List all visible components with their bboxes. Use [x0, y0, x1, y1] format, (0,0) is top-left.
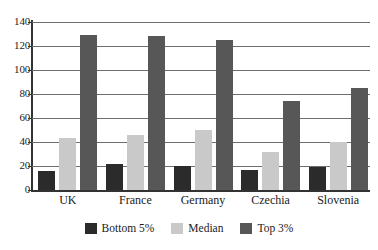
legend-item-median[interactable]: Median — [171, 222, 223, 234]
legend-swatch-icon — [171, 223, 183, 234]
bar-czechia-top-3 — [283, 101, 300, 190]
bar-france-bottom-5 — [106, 164, 123, 190]
y-tick-label-140: 140 — [4, 16, 30, 27]
bar-germany-top-3 — [216, 40, 233, 190]
bar-france-median — [127, 135, 144, 190]
bar-germany-median — [195, 130, 212, 190]
bar-czechia-median — [262, 152, 279, 190]
y-tick-mark-0 — [28, 190, 32, 191]
bar-group-germany: Germany — [174, 22, 233, 190]
legend-label: Bottom 5% — [102, 222, 155, 234]
y-tick-label-120: 120 — [4, 40, 30, 51]
y-tick-mark-40 — [28, 142, 32, 143]
legend-item-bottom-5[interactable]: Bottom 5% — [85, 222, 155, 234]
bar-chart: 020406080100120140 UKFranceGermanyCzechi… — [0, 0, 378, 250]
y-tick-mark-120 — [28, 46, 32, 47]
y-tick-mark-80 — [28, 94, 32, 95]
bar-slovenia-median — [330, 142, 347, 190]
bar-group-france: France — [106, 22, 165, 190]
legend-label: Median — [188, 222, 223, 234]
y-tick-label-20: 20 — [4, 160, 30, 171]
chart-legend: Bottom 5%MedianTop 3% — [0, 222, 378, 234]
bar-czechia-bottom-5 — [241, 170, 258, 190]
bar-uk-top-3 — [80, 35, 97, 190]
legend-swatch-icon — [240, 223, 252, 234]
bar-uk-bottom-5 — [38, 171, 55, 190]
bar-germany-bottom-5 — [174, 166, 191, 190]
bar-uk-median — [59, 138, 76, 190]
y-tick-mark-60 — [28, 118, 32, 119]
y-tick-mark-140 — [28, 22, 32, 23]
y-tick-mark-100 — [28, 70, 32, 71]
y-tick-label-40: 40 — [4, 136, 30, 147]
x-axis-label-slovenia: Slovenia — [278, 194, 378, 207]
plot-area: 020406080100120140 UKFranceGermanyCzechi… — [32, 22, 370, 190]
y-tick-label-60: 60 — [4, 112, 30, 123]
bar-slovenia-top-3 — [351, 88, 368, 190]
y-tick-mark-20 — [28, 166, 32, 167]
bar-france-top-3 — [148, 36, 165, 190]
x-axis-line — [31, 190, 370, 192]
y-tick-label-80: 80 — [4, 88, 30, 99]
legend-item-top-3[interactable]: Top 3% — [240, 222, 293, 234]
bar-group-uk: UK — [38, 22, 97, 190]
legend-label: Top 3% — [257, 222, 293, 234]
bar-group-czechia: Czechia — [241, 22, 300, 190]
y-tick-label-100: 100 — [4, 64, 30, 75]
bar-slovenia-bottom-5 — [309, 167, 326, 190]
bar-group-slovenia: Slovenia — [309, 22, 368, 190]
legend-swatch-icon — [85, 223, 97, 234]
